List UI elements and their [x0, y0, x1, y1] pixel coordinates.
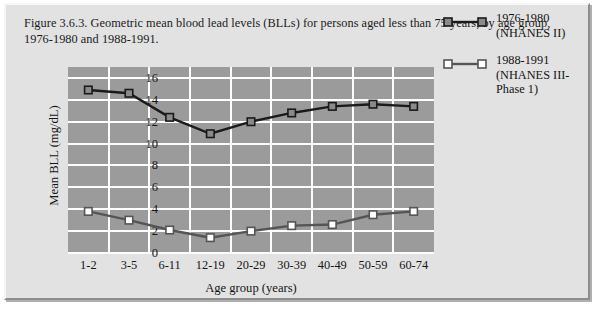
- figure-frame: Figure 3.6.3. Geometric mean blood lead …: [4, 3, 590, 300]
- series-1976-1980-line: [88, 90, 413, 134]
- series-1976-1980-marker: [247, 118, 255, 126]
- legend-label: 1988-1991(NHANES III-Phase 1): [496, 53, 592, 97]
- series-1976-1980-marker: [288, 109, 296, 117]
- series-1988-1991-marker: [166, 226, 174, 234]
- series-1976-1980-marker: [125, 90, 133, 98]
- series-1988-1991-marker: [85, 208, 93, 216]
- legend-item-series-1976-1980: 1976-1980(NHANES II): [442, 11, 592, 40]
- series-layer: [68, 67, 434, 253]
- legend-label: 1976-1980(NHANES II): [496, 11, 592, 40]
- series-1988-1991-marker: [288, 222, 296, 230]
- series-1988-1991-swatch-icon: [442, 56, 488, 68]
- series-1988-1991-marker: [369, 211, 377, 219]
- series-1976-1980-marker: [410, 103, 418, 111]
- legend-item-series-1988-1991: 1988-1991(NHANES III-Phase 1): [442, 53, 592, 97]
- series-1988-1991-marker: [410, 208, 418, 216]
- x-axis-tick-label: 60-74: [382, 258, 446, 273]
- series-1988-1991-marker: [329, 221, 337, 229]
- series-1976-1980-marker: [207, 130, 215, 138]
- series-1988-1991-marker: [207, 234, 215, 242]
- series-1976-1980-swatch-icon: [442, 14, 488, 26]
- series-1976-1980-marker: [329, 103, 337, 111]
- series-1976-1980-marker: [369, 100, 377, 108]
- series-1988-1991-marker: [247, 227, 255, 235]
- series-1976-1980-marker: [85, 86, 93, 94]
- series-1988-1991-marker: [125, 216, 133, 224]
- chart-legend: 1976-1980(NHANES II)1988-1991(NHANES III…: [442, 11, 592, 110]
- series-1976-1980-marker: [166, 114, 174, 122]
- x-axis-title: Age group (years): [68, 281, 434, 296]
